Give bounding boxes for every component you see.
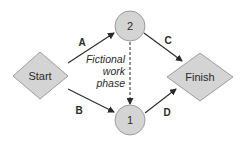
node-1: 1 (115, 105, 145, 135)
edge-label-b: B (75, 105, 82, 116)
edge-label-d: D (163, 107, 170, 118)
annotation-line-3: phase (95, 77, 125, 89)
node-2: 2 (115, 11, 145, 41)
node-1-label: 1 (127, 114, 133, 126)
edge-d (145, 89, 176, 113)
edge-label-a: A (78, 37, 85, 48)
edge-label-c: C (164, 35, 171, 46)
finish-label: Finish (185, 71, 214, 83)
activity-network-diagram: A B C D Fictional work phase Start 2 1 F… (0, 0, 243, 146)
node-start: Start (13, 52, 68, 99)
node-finish: Finish (167, 53, 233, 101)
node-2-label: 2 (127, 20, 133, 32)
annotation-line-2: work (103, 65, 126, 77)
edge-c (144, 33, 182, 61)
fictional-work-phase-annotation: Fictional work phase (86, 53, 126, 89)
start-label: Start (28, 70, 51, 82)
annotation-line-1: Fictional (86, 53, 126, 65)
